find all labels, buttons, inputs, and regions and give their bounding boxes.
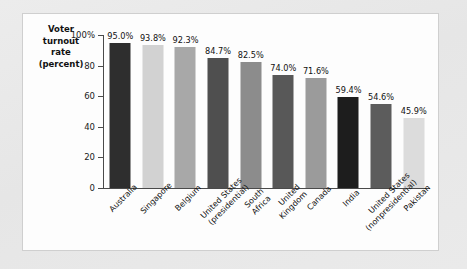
bar[interactable]: 71.6% xyxy=(305,78,326,188)
y-axis-tick-label: 20 xyxy=(84,152,95,162)
bar[interactable]: 95.0% xyxy=(110,43,131,188)
bar[interactable]: 59.4% xyxy=(338,97,359,188)
x-axis-line xyxy=(103,188,430,189)
x-axis-category-line: India xyxy=(342,188,363,209)
bar-slot: 71.6% xyxy=(300,35,333,188)
bar-slot: 82.5% xyxy=(234,35,267,188)
y-axis-tick-label: 80 xyxy=(84,61,95,71)
bar-slot: 95.0% xyxy=(104,35,137,188)
y-axis-tick-label: 100% xyxy=(71,30,95,40)
bar[interactable]: 92.3% xyxy=(175,47,196,188)
bar-value-label: 92.3% xyxy=(172,35,198,45)
bar[interactable]: 93.8% xyxy=(142,45,163,189)
bar-slot: 59.4% xyxy=(332,35,365,188)
bar[interactable]: 74.0% xyxy=(273,75,294,188)
bar-slot: 84.7% xyxy=(202,35,235,188)
bar-value-label: 74.0% xyxy=(270,63,296,73)
bar-slot: 93.8% xyxy=(137,35,170,188)
bar[interactable]: 84.7% xyxy=(208,58,229,188)
chart-area: Voter turnout rate (percent) 100%8060402… xyxy=(23,14,438,250)
y-axis-tick-label: 40 xyxy=(84,122,95,132)
bar-slot: 92.3% xyxy=(169,35,202,188)
x-axis-labels: AustraliaSingaporeBelgiumUnited States(p… xyxy=(104,192,430,252)
figure-card: Voter turnout rate (percent) 100%8060402… xyxy=(22,13,439,251)
y-axis-title-line-3: rate xyxy=(25,47,97,59)
bar-value-label: 95.0% xyxy=(107,31,133,41)
bar-value-label: 82.5% xyxy=(238,50,264,60)
bar-value-label: 84.7% xyxy=(205,46,231,56)
bar-slot: 54.6% xyxy=(365,35,398,188)
bar-series: 95.0%93.8%92.3%84.7%82.5%74.0%71.6%59.4%… xyxy=(104,35,430,188)
bar-value-label: 71.6% xyxy=(303,66,329,76)
y-axis-tick-label: 0 xyxy=(90,183,95,193)
bar-value-label: 59.4% xyxy=(335,85,361,95)
bar-value-label: 45.9% xyxy=(401,106,427,116)
x-axis-category-label: India xyxy=(342,188,363,209)
plot-region: 100%806040200 95.0%93.8%92.3%84.7%82.5%7… xyxy=(103,35,430,188)
bar-value-label: 93.8% xyxy=(140,33,166,43)
y-axis-tick-label: 60 xyxy=(84,91,95,101)
bar[interactable]: 82.5% xyxy=(240,62,261,188)
bar-slot: 45.9% xyxy=(397,35,430,188)
y-axis-tick xyxy=(98,188,104,189)
bar-value-label: 54.6% xyxy=(368,92,394,102)
bar-slot: 74.0% xyxy=(267,35,300,188)
bar[interactable]: 54.6% xyxy=(371,104,392,188)
